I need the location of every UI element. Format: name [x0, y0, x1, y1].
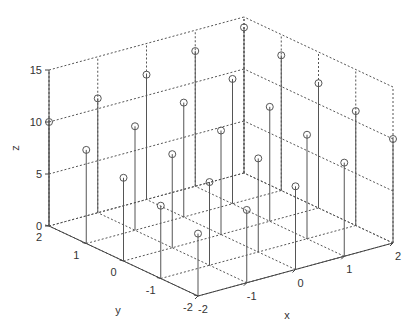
x-tick-label: 0: [297, 277, 303, 289]
y-axis-label: y: [115, 304, 121, 316]
x-axis-label: x: [284, 309, 290, 321]
z-tick-label: 5: [36, 168, 42, 180]
y-tick-label: 1: [73, 249, 79, 261]
y-tick-label: 2: [36, 231, 42, 243]
tick-labels: -2-1012-2-1012051015: [30, 64, 401, 315]
x-tick-label: -1: [247, 290, 257, 302]
z-axis-label: z: [9, 145, 21, 151]
y-tick-mark: [157, 278, 161, 279]
z-tick-label: 15: [30, 64, 42, 76]
axes: [45, 70, 393, 299]
x-tick-mark: [195, 296, 198, 299]
z-tick-label: 0: [36, 220, 42, 232]
z-tick-label: 10: [30, 116, 42, 128]
y-tick-mark: [82, 243, 86, 244]
stem3-plot: -2-1012-2-1012051015 x y z: [0, 0, 420, 331]
y-tick-mark: [120, 260, 124, 261]
y-tick-label: 0: [110, 266, 116, 278]
y-tick-label: -2: [183, 301, 193, 313]
x-tick-label: 2: [395, 250, 401, 262]
y-tick-label: -1: [146, 284, 156, 296]
x-tick-label: 1: [346, 263, 352, 275]
x-tick-label: -2: [198, 303, 208, 315]
y-tick-mark: [194, 295, 198, 296]
